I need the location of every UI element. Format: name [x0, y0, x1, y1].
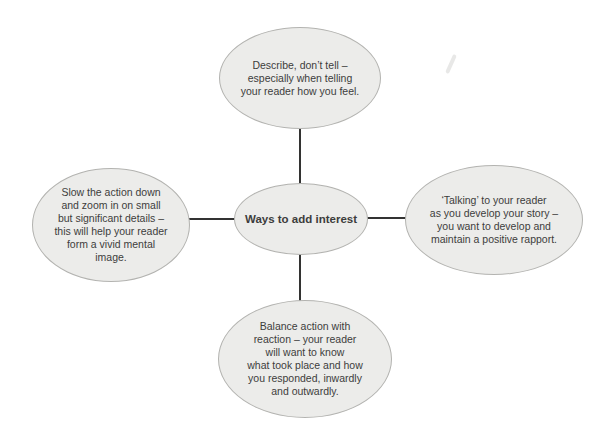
- connector-left: [185, 218, 237, 220]
- connector-bottom: [299, 252, 301, 304]
- node-slow-action: Slow the action down and zoom in on smal…: [32, 168, 190, 282]
- node-talking: ‘Talking’ to your reader as you develop …: [405, 165, 583, 275]
- connector-right: [363, 217, 409, 219]
- diagram-canvas: Describe, don’t tell – especially when t…: [0, 0, 595, 427]
- node-balance-text: Balance action with reaction – your read…: [243, 318, 367, 400]
- connector-top: [299, 126, 301, 186]
- node-describe-text: Describe, don’t tell – especially when t…: [237, 57, 363, 100]
- node-center: Ways to add interest: [234, 183, 368, 255]
- node-slow-action-text: Slow the action down and zoom in on smal…: [50, 184, 171, 266]
- node-describe: Describe, don’t tell – especially when t…: [219, 27, 381, 129]
- scan-smudge-artifact: [445, 54, 457, 74]
- node-balance: Balance action with reaction – your read…: [218, 300, 392, 418]
- center-label: Ways to add interest: [245, 212, 357, 226]
- node-talking-text: ‘Talking’ to your reader as you develop …: [426, 192, 562, 248]
